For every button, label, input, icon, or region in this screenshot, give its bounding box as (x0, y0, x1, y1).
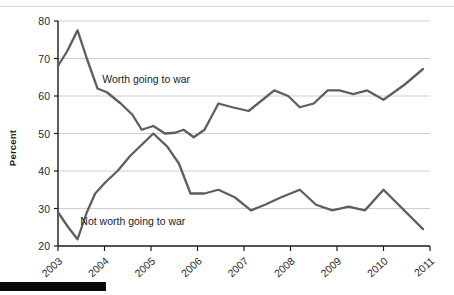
y-tick-label: 40 (38, 165, 50, 177)
x-tick-group: 200320042005200620072008200920102011 (39, 246, 436, 279)
series-annotation-1: Worth going to war (102, 73, 190, 85)
x-tick-label: 2009 (318, 254, 344, 279)
x-tick-label: 2005 (132, 254, 158, 279)
gridlines-group (58, 21, 430, 209)
y-tick-label: 60 (38, 90, 50, 102)
y-tick-label: 50 (38, 128, 50, 140)
bottom-black-bar (0, 282, 106, 291)
x-tick-label: 2008 (271, 254, 297, 279)
y-tick-label: 20 (38, 240, 50, 252)
y-tick-label: 70 (38, 53, 50, 65)
line-chart: 200320042005200620072008200920102011 203… (0, 0, 454, 295)
x-tick-label: 2006 (178, 254, 204, 279)
y-tick-group: 20304050607080 (38, 15, 58, 252)
y-axis-title: Percent (7, 129, 18, 166)
x-tick-label: 2010 (364, 254, 390, 279)
x-tick-label: 2004 (85, 254, 111, 279)
series-annotation-2: Not worth going to war (80, 215, 186, 227)
x-tick-label: 2011 (412, 254, 437, 278)
x-tick-label: 2007 (225, 254, 251, 279)
y-tick-label: 30 (38, 203, 50, 215)
scan-artifact-line (0, 6, 454, 7)
chart-container: 200320042005200620072008200920102011 203… (0, 0, 454, 295)
series-group (58, 30, 423, 239)
x-tick-label: 2003 (39, 254, 65, 279)
y-tick-label: 80 (38, 15, 50, 27)
